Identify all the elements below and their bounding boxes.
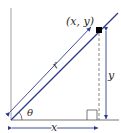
right-angle-marker [87, 110, 97, 120]
theta-arc [19, 112, 22, 120]
y-label: y [107, 69, 115, 82]
polar-coordinates-diagram: (x, y) r θ y x [0, 0, 121, 133]
x-label: x [51, 121, 58, 133]
point-label: (x, y) [66, 15, 94, 28]
point-marker [96, 27, 102, 33]
theta-label: θ [27, 107, 33, 118]
r-arrow [10, 27, 91, 112]
